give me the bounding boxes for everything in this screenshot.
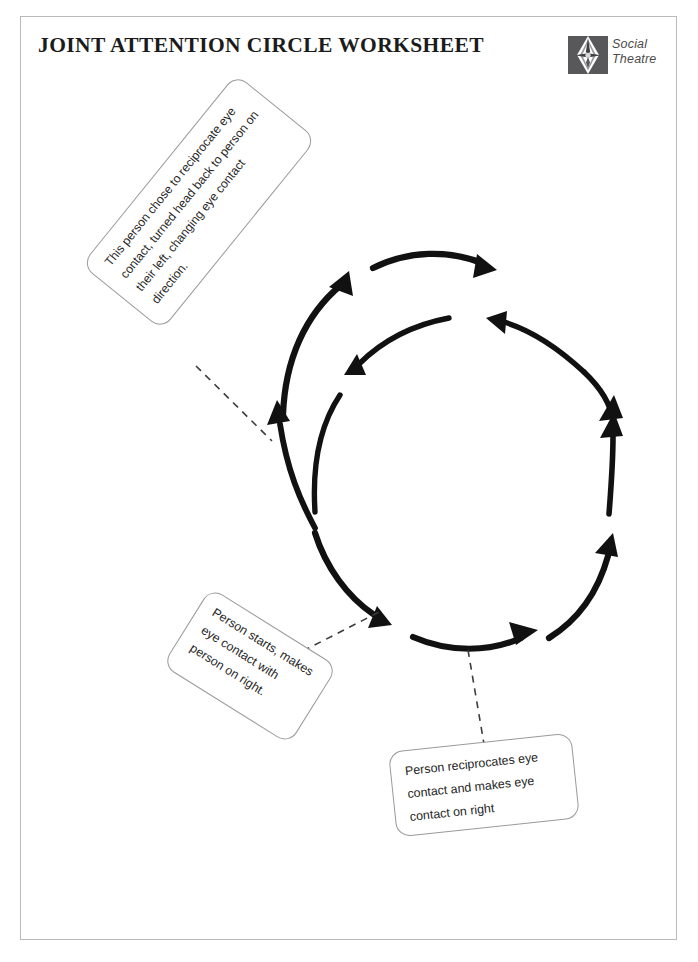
page-border-frame xyxy=(20,16,677,940)
brand-wordmark: Social Theatre xyxy=(612,37,656,67)
worksheet-page: JOINT ATTENTION CIRCLE WORKSHEET Social … xyxy=(0,0,698,962)
brand-line-1: Social xyxy=(612,37,656,52)
brand-line-2: Theatre xyxy=(612,52,656,67)
social-theatre-diamond-icon xyxy=(568,35,608,75)
page-title: JOINT ATTENTION CIRCLE WORKSHEET xyxy=(38,33,484,58)
brand-logo: Social Theatre xyxy=(568,33,664,77)
